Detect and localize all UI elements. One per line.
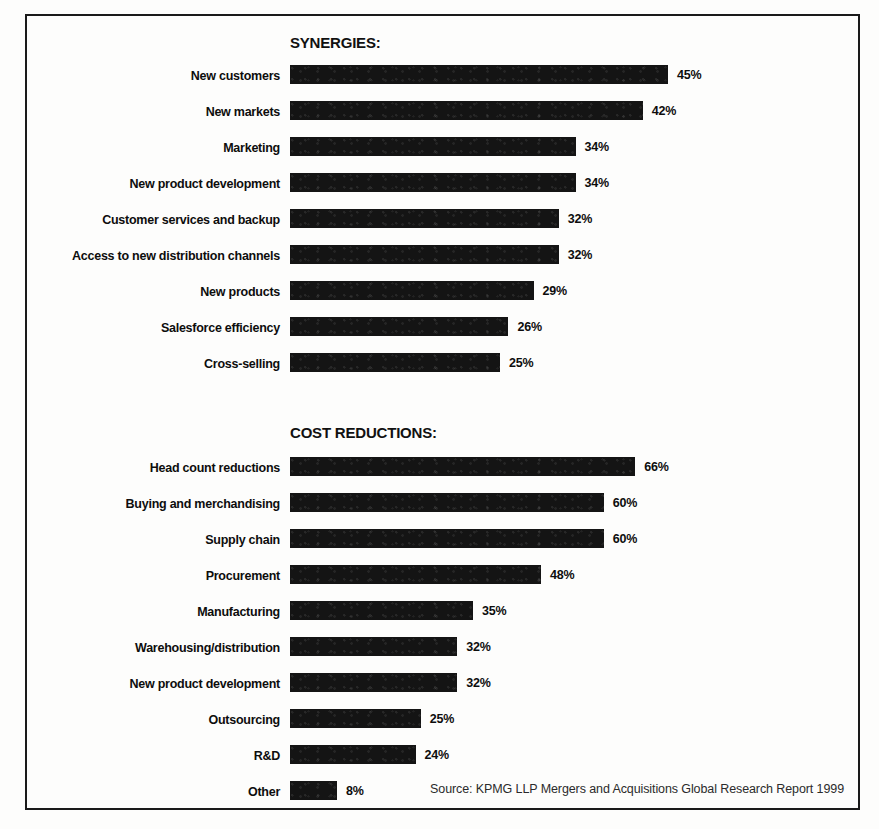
cost-reductions-bar-row: Manufacturing35% (27, 597, 858, 633)
synergies-bar-value-label: 34% (585, 176, 609, 190)
synergies-category-label: Salesforce efficiency (20, 321, 280, 335)
cost-reductions-bar-track: 25% (290, 709, 850, 728)
synergies-bar-value-label: 42% (652, 104, 676, 118)
cost-reductions-bar-track: 66% (290, 457, 850, 476)
synergies-bar-track: 34% (290, 173, 850, 192)
synergies-bar-row: New markets42% (27, 97, 858, 133)
cost-reductions-bar (290, 745, 416, 764)
synergies-bar-track: 29% (290, 281, 850, 300)
cost-reductions-category-label: Other (20, 785, 280, 799)
synergies-bar (290, 209, 559, 228)
synergies-bar-track: 25% (290, 353, 850, 372)
synergies-bar-row: Marketing34% (27, 133, 858, 169)
synergies-bar-value-label: 32% (568, 248, 592, 262)
synergies-bar-value-label: 34% (585, 140, 609, 154)
cost-reductions-bar-track: 32% (290, 637, 850, 656)
cost-reductions-bar-value-label: 32% (466, 640, 490, 654)
cost-reductions-bar (290, 565, 541, 584)
source-note: Source: KPMG LLP Mergers and Acquisition… (430, 782, 844, 796)
cost-reductions-bar (290, 601, 473, 620)
synergies-category-label: Marketing (20, 141, 280, 155)
cost-reductions-bar (290, 709, 421, 728)
synergies-bar-track: 42% (290, 101, 850, 120)
synergies-bar-row: Customer services and backup32% (27, 205, 858, 241)
synergies-bar-value-label: 29% (543, 284, 567, 298)
cost-reductions-bar-value-label: 66% (644, 460, 668, 474)
cost-reductions-bar-row: New product development32% (27, 669, 858, 705)
synergies-bar-row: Access to new distribution channels32% (27, 241, 858, 277)
synergies-bar-track: 32% (290, 209, 850, 228)
synergies-bar (290, 317, 508, 336)
cost-reductions-bar (290, 637, 457, 656)
cost-reductions-bar-row: Procurement48% (27, 561, 858, 597)
synergies-bar-value-label: 26% (517, 320, 541, 334)
cost-reductions-bar-row: Buying and merchandising60% (27, 489, 858, 525)
synergies-bar-value-label: 45% (677, 68, 701, 82)
cost-reductions-bar-row: Outsourcing25% (27, 705, 858, 741)
synergies-bar-row: New products29% (27, 277, 858, 313)
cost-reductions-bar-value-label: 60% (613, 532, 637, 546)
synergies-category-label: New products (20, 285, 280, 299)
chart-page: SYNERGIES: New customers45%New markets42… (0, 0, 879, 829)
synergies-bar-track: 32% (290, 245, 850, 264)
cost-reductions-bar-track: 32% (290, 673, 850, 692)
cost-reductions-category-label: Supply chain (20, 533, 280, 547)
synergies-bar-row: Cross-selling25% (27, 349, 858, 385)
cost-reductions-bar-track: 48% (290, 565, 850, 584)
cost-reductions-category-label: Head count reductions (20, 461, 280, 475)
synergies-bar-row: Salesforce efficiency26% (27, 313, 858, 349)
cost-reductions-category-label: Buying and merchandising (20, 497, 280, 511)
synergies-bar (290, 137, 576, 156)
cost-reductions-bar-value-label: 60% (613, 496, 637, 510)
synergies-bar-track: 26% (290, 317, 850, 336)
cost-reductions-bar-value-label: 24% (425, 748, 449, 762)
cost-reductions-bar-track: 35% (290, 601, 850, 620)
synergies-bar (290, 353, 500, 372)
synergies-category-label: Access to new distribution channels (20, 249, 280, 263)
synergies-bar-rows: New customers45%New markets42%Marketing3… (27, 61, 858, 385)
synergies-bar (290, 65, 668, 84)
cost-reductions-bar (290, 781, 337, 800)
chart-frame-border: SYNERGIES: New customers45%New markets42… (25, 14, 860, 810)
cost-reductions-category-label: Warehousing/distribution (20, 641, 280, 655)
cost-reductions-bar-track: 60% (290, 493, 850, 512)
synergies-bar-track: 34% (290, 137, 850, 156)
synergies-bar-row: New product development34% (27, 169, 858, 205)
synergies-bar (290, 281, 534, 300)
cost-reductions-bar (290, 493, 604, 512)
cost-reductions-category-label: Outsourcing (20, 713, 280, 727)
cost-reductions-bar-row: Warehousing/distribution32% (27, 633, 858, 669)
cost-reductions-bar-value-label: 25% (430, 712, 454, 726)
synergies-bar-row: New customers45% (27, 61, 858, 97)
synergies-bar-value-label: 32% (568, 212, 592, 226)
cost-reductions-bar (290, 529, 604, 548)
cost-reductions-bar-track: 24% (290, 745, 850, 764)
cost-reductions-bar-row: Supply chain60% (27, 525, 858, 561)
cost-reductions-bar-value-label: 48% (550, 568, 574, 582)
cost-reductions-category-label: Manufacturing (20, 605, 280, 619)
cost-reductions-bar (290, 457, 635, 476)
synergies-bar (290, 245, 559, 264)
cost-reductions-bar (290, 673, 457, 692)
cost-reductions-bar-rows: Head count reductions66%Buying and merch… (27, 453, 858, 813)
synergies-bar (290, 101, 643, 120)
cost-reductions-bar-row: Head count reductions66% (27, 453, 858, 489)
cost-reductions-bar-value-label: 32% (466, 676, 490, 690)
synergies-bar-track: 45% (290, 65, 850, 84)
cost-reductions-category-label: Procurement (20, 569, 280, 583)
cost-reductions-bar-track: 60% (290, 529, 850, 548)
synergies-category-label: New product development (20, 177, 280, 191)
synergies-chart-title: SYNERGIES: (290, 34, 381, 51)
synergies-category-label: Cross-selling (20, 357, 280, 371)
cost-reductions-bar-row: R&D24% (27, 741, 858, 777)
synergies-category-label: New markets (20, 105, 280, 119)
synergies-category-label: Customer services and backup (20, 213, 280, 227)
synergies-bar (290, 173, 576, 192)
synergies-bar-value-label: 25% (509, 356, 533, 370)
cost-reductions-chart-title: COST REDUCTIONS: (290, 424, 437, 441)
cost-reductions-bar-value-label: 35% (482, 604, 506, 618)
synergies-category-label: New customers (20, 69, 280, 83)
cost-reductions-bar-value-label: 8% (346, 784, 364, 798)
cost-reductions-category-label: R&D (20, 749, 280, 763)
cost-reductions-category-label: New product development (20, 677, 280, 691)
